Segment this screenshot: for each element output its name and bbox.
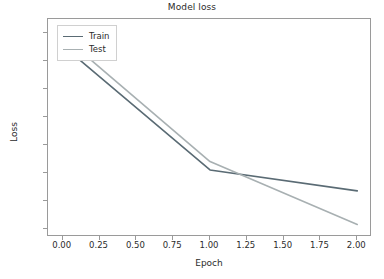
figure: Model loss Loss Train Test 0.10.20.30.40…: [0, 0, 384, 279]
x-tick-mark: [283, 236, 284, 240]
x-tick-mark: [135, 236, 136, 240]
x-tick-label: 0.00: [52, 240, 71, 250]
x-tick-label: 0.75: [163, 240, 182, 250]
legend-label-train: Train: [89, 30, 109, 43]
legend-swatch-train: [63, 36, 83, 37]
y-tick-mark: [43, 88, 47, 89]
y-axis-label: Loss: [9, 102, 19, 162]
y-tick-mark: [43, 116, 47, 117]
x-tick-mark: [356, 236, 357, 240]
y-tick-mark: [43, 172, 47, 173]
x-tick-label: 1.75: [310, 240, 329, 250]
x-tick-label: 0.50: [126, 240, 145, 250]
y-tick-mark: [43, 200, 47, 201]
y-tick-mark: [43, 144, 47, 145]
x-tick-mark: [246, 236, 247, 240]
x-tick-mark: [172, 236, 173, 240]
legend-label-test: Test: [89, 43, 106, 56]
x-tick-label: 1.00: [200, 240, 219, 250]
legend-swatch-test: [63, 49, 83, 50]
legend-item-test: Test: [63, 43, 109, 56]
legend: Train Test: [57, 25, 117, 61]
line-train: [63, 46, 358, 191]
legend-item-train: Train: [63, 30, 109, 43]
y-tick-mark: [43, 32, 47, 33]
x-tick-label: 1.25: [236, 240, 255, 250]
y-tick-mark: [43, 60, 47, 61]
x-tick-mark: [62, 236, 63, 240]
plot-area: Train Test: [47, 18, 371, 236]
x-tick-label: 1.50: [273, 240, 292, 250]
x-tick-label: 0.25: [89, 240, 108, 250]
line-test: [63, 36, 358, 225]
x-tick-label: 2.00: [347, 240, 366, 250]
x-axis-label: Epoch: [47, 258, 371, 268]
x-tick-mark: [209, 236, 210, 240]
y-tick-mark: [43, 228, 47, 229]
x-tick-mark: [99, 236, 100, 240]
x-tick-mark: [319, 236, 320, 240]
